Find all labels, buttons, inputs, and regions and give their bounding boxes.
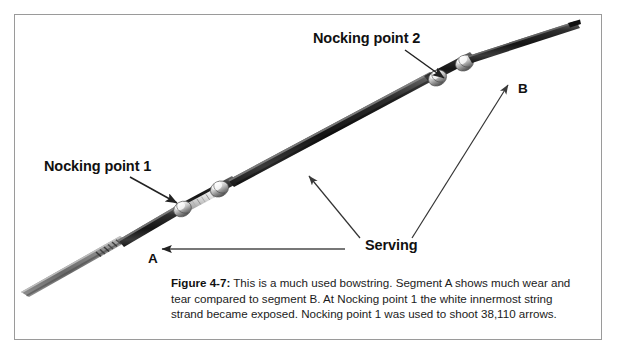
nocking-point-2 bbox=[424, 52, 476, 89]
label-segment-a: A bbox=[148, 252, 158, 266]
figure-container: Nocking point 1 Nocking point 2 Serving … bbox=[0, 0, 618, 357]
bowstring-segment-a-dark bbox=[118, 206, 182, 247]
bowstring-middle-span bbox=[228, 72, 439, 187]
label-segment-b: B bbox=[518, 82, 528, 96]
bowstring-segment-a-worn bbox=[21, 236, 128, 297]
nocking-point-1 bbox=[171, 176, 238, 220]
figure-caption-text: This is a much used bowstring. Segment A… bbox=[171, 276, 570, 320]
leader-nocking-point-1 bbox=[130, 177, 177, 203]
leader-nocking-point-2 bbox=[405, 50, 444, 78]
annotation-leader-lines bbox=[130, 50, 508, 249]
label-nocking-point-2: Nocking point 2 bbox=[313, 31, 420, 46]
figure-caption-number: Figure 4-7: bbox=[171, 276, 230, 289]
label-nocking-point-1: Nocking point 1 bbox=[44, 159, 151, 174]
leader-serving-to-string bbox=[309, 176, 360, 238]
figure-caption: Figure 4-7: This is a much used bowstrin… bbox=[171, 275, 586, 322]
label-serving: Serving bbox=[365, 238, 418, 253]
bowstring-segment-b bbox=[468, 20, 581, 63]
leader-serving-to-segment-b bbox=[412, 85, 508, 238]
